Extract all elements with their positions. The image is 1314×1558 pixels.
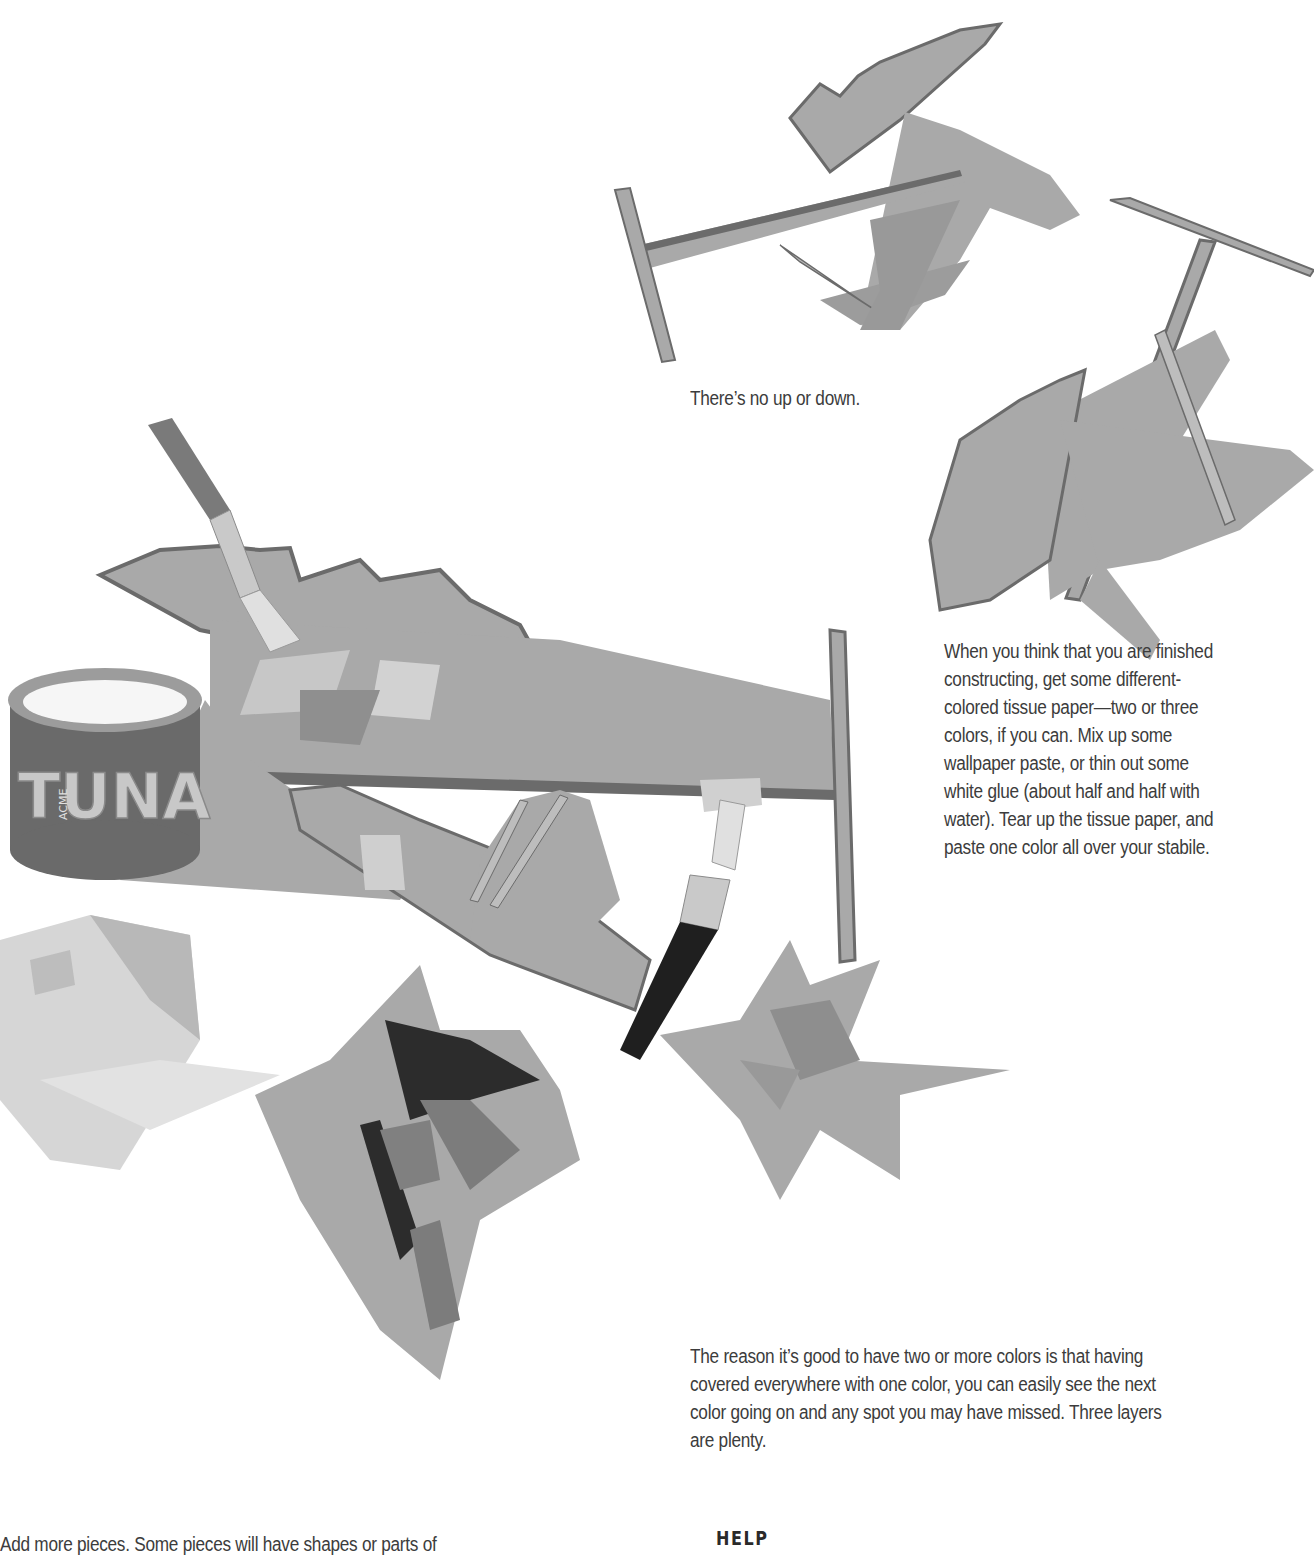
paragraph-line: color going on and any spot you may have… (690, 1398, 1314, 1426)
instruction-paragraph-colors: The reason it’s good to have two or more… (690, 1342, 1314, 1454)
help-heading: HELP (716, 1526, 769, 1550)
paragraph-line: paste one color all over your stabile. (944, 833, 1314, 861)
tissue-pile-right (660, 940, 1010, 1200)
paragraph-line: white glue (about half and half with (944, 777, 1314, 805)
paragraph-line: When you think that you are finished (944, 637, 1314, 665)
paragraph-line: covered everywhere with one color, you c… (690, 1370, 1314, 1398)
tissue-pile-dark (255, 965, 580, 1380)
stabile-top (615, 24, 1080, 362)
paragraph-line: colors, if you can. Mix up some (944, 721, 1314, 749)
caption-no-up-or-down: There’s no up or down. (690, 384, 860, 412)
paragraph-line: constructing, get some different- (944, 665, 1314, 693)
stabile-main (100, 546, 855, 1010)
instruction-paragraph-tissue: When you think that you are finished con… (944, 637, 1314, 861)
instruction-paragraph-add-pieces: Add more pieces. Some pieces will have s… (0, 1530, 437, 1558)
stabile-right (930, 198, 1314, 660)
tuna-can: TUNA ACME (8, 668, 211, 880)
tissue-pile-light (0, 915, 280, 1170)
paragraph-line: wallpaper paste, or thin out some (944, 749, 1314, 777)
paintbrush-right (620, 800, 745, 1060)
can-brand-text: ACME (57, 788, 70, 820)
paragraph-line: colored tissue paper—two or three (944, 693, 1314, 721)
paragraph-line: The reason it’s good to have two or more… (690, 1342, 1314, 1370)
paragraph-line: water). Tear up the tissue paper, and (944, 805, 1314, 833)
can-label-text: TUNA (18, 760, 211, 833)
paragraph-line: are plenty. (690, 1426, 1314, 1454)
